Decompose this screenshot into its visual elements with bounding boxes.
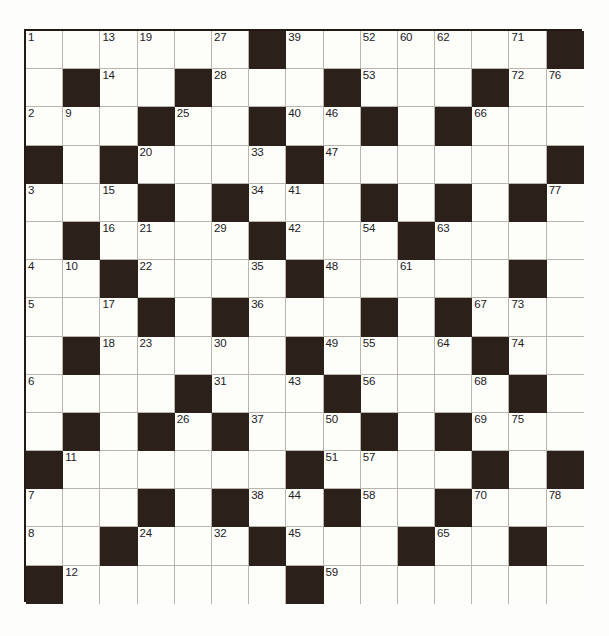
grid-cell[interactable] (100, 107, 137, 145)
grid-cell[interactable] (398, 184, 435, 222)
grid-cell[interactable]: 18 (100, 337, 137, 375)
grid-cell[interactable]: 56 (361, 375, 398, 413)
grid-cell[interactable] (212, 146, 249, 184)
grid-cell[interactable] (547, 260, 584, 298)
grid-cell[interactable]: 16 (100, 222, 137, 260)
grid-cell[interactable] (286, 413, 323, 451)
grid-cell[interactable]: 25 (175, 107, 212, 145)
grid-cell[interactable] (509, 146, 546, 184)
grid-cell[interactable] (249, 451, 286, 489)
grid-cell[interactable] (175, 451, 212, 489)
grid-cell[interactable] (249, 375, 286, 413)
crossword-grid[interactable]: 1131927395260627114285372762925404666203… (24, 29, 582, 602)
grid-cell[interactable] (472, 527, 509, 565)
grid-cell[interactable] (175, 298, 212, 336)
grid-cell[interactable]: 60 (398, 31, 435, 69)
grid-cell[interactable] (509, 451, 546, 489)
grid-cell[interactable] (398, 489, 435, 527)
grid-cell[interactable]: 47 (324, 146, 361, 184)
grid-cell[interactable] (547, 337, 584, 375)
grid-cell[interactable] (175, 260, 212, 298)
grid-cell[interactable] (361, 527, 398, 565)
grid-cell[interactable] (361, 260, 398, 298)
grid-cell[interactable]: 54 (361, 222, 398, 260)
grid-cell[interactable]: 59 (324, 566, 361, 604)
grid-cell[interactable] (324, 184, 361, 222)
grid-cell[interactable]: 61 (398, 260, 435, 298)
grid-cell[interactable] (435, 69, 472, 107)
grid-cell[interactable] (63, 184, 100, 222)
grid-cell[interactable]: 71 (509, 31, 546, 69)
grid-cell[interactable]: 27 (212, 31, 249, 69)
grid-cell[interactable] (138, 69, 175, 107)
grid-cell[interactable] (324, 527, 361, 565)
grid-cell[interactable]: 29 (212, 222, 249, 260)
grid-cell[interactable]: 10 (63, 260, 100, 298)
grid-cell[interactable]: 1 (26, 31, 63, 69)
grid-cell[interactable] (398, 146, 435, 184)
grid-cell[interactable]: 66 (472, 107, 509, 145)
grid-cell[interactable]: 72 (509, 69, 546, 107)
grid-cell[interactable] (249, 566, 286, 604)
grid-cell[interactable]: 63 (435, 222, 472, 260)
grid-cell[interactable] (398, 413, 435, 451)
grid-cell[interactable]: 69 (472, 413, 509, 451)
grid-cell[interactable] (547, 107, 584, 145)
grid-cell[interactable]: 4 (26, 260, 63, 298)
grid-cell[interactable]: 17 (100, 298, 137, 336)
grid-cell[interactable]: 13 (100, 31, 137, 69)
grid-cell[interactable] (547, 222, 584, 260)
grid-cell[interactable] (138, 451, 175, 489)
grid-cell[interactable]: 58 (361, 489, 398, 527)
grid-cell[interactable] (361, 146, 398, 184)
grid-cell[interactable] (324, 31, 361, 69)
grid-cell[interactable]: 19 (138, 31, 175, 69)
grid-cell[interactable]: 70 (472, 489, 509, 527)
grid-cell[interactable] (286, 69, 323, 107)
grid-cell[interactable] (547, 375, 584, 413)
grid-cell[interactable]: 53 (361, 69, 398, 107)
grid-cell[interactable]: 48 (324, 260, 361, 298)
grid-cell[interactable] (398, 298, 435, 336)
grid-cell[interactable]: 77 (547, 184, 584, 222)
grid-cell[interactable]: 30 (212, 337, 249, 375)
grid-cell[interactable]: 5 (26, 298, 63, 336)
grid-cell[interactable]: 39 (286, 31, 323, 69)
grid-cell[interactable] (398, 566, 435, 604)
grid-cell[interactable]: 9 (63, 107, 100, 145)
grid-cell[interactable]: 50 (324, 413, 361, 451)
grid-cell[interactable]: 36 (249, 298, 286, 336)
grid-cell[interactable] (100, 489, 137, 527)
grid-cell[interactable] (398, 451, 435, 489)
grid-cell[interactable] (100, 566, 137, 604)
grid-cell[interactable] (435, 146, 472, 184)
grid-cell[interactable] (138, 375, 175, 413)
grid-cell[interactable] (435, 260, 472, 298)
grid-cell[interactable]: 26 (175, 413, 212, 451)
grid-cell[interactable]: 42 (286, 222, 323, 260)
grid-cell[interactable] (547, 413, 584, 451)
grid-cell[interactable]: 57 (361, 451, 398, 489)
grid-cell[interactable]: 41 (286, 184, 323, 222)
grid-cell[interactable] (175, 146, 212, 184)
grid-cell[interactable] (100, 413, 137, 451)
grid-cell[interactable] (509, 566, 546, 604)
grid-cell[interactable]: 34 (249, 184, 286, 222)
grid-cell[interactable]: 21 (138, 222, 175, 260)
grid-cell[interactable] (138, 566, 175, 604)
grid-cell[interactable]: 31 (212, 375, 249, 413)
grid-cell[interactable]: 11 (63, 451, 100, 489)
grid-cell[interactable]: 37 (249, 413, 286, 451)
grid-cell[interactable] (324, 222, 361, 260)
grid-cell[interactable] (509, 222, 546, 260)
grid-cell[interactable]: 51 (324, 451, 361, 489)
grid-cell[interactable]: 15 (100, 184, 137, 222)
grid-cell[interactable]: 6 (26, 375, 63, 413)
grid-cell[interactable] (175, 489, 212, 527)
grid-cell[interactable] (175, 31, 212, 69)
grid-cell[interactable] (100, 451, 137, 489)
grid-cell[interactable]: 38 (249, 489, 286, 527)
grid-cell[interactable]: 52 (361, 31, 398, 69)
grid-cell[interactable] (26, 337, 63, 375)
grid-cell[interactable] (63, 375, 100, 413)
